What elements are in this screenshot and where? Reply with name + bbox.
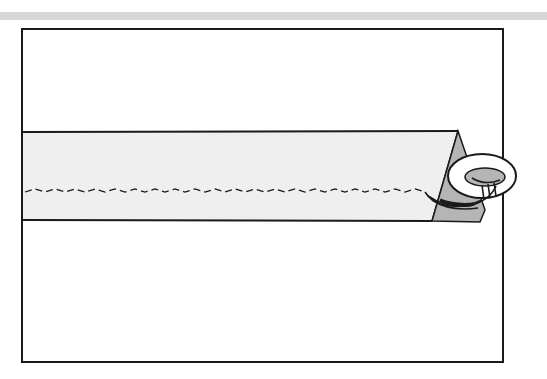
fabric-tube xyxy=(23,131,458,221)
sewing-illustration xyxy=(0,0,547,379)
ring xyxy=(448,154,516,198)
